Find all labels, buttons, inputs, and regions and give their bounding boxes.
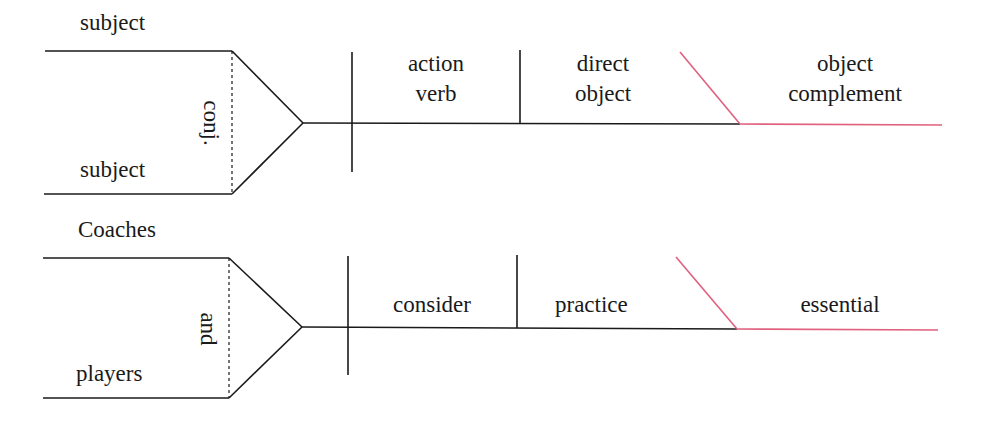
example-subject-bottom-label: players — [76, 361, 142, 387]
example-subject-top-label: Coaches — [78, 217, 156, 243]
complement-slant-line — [676, 257, 737, 329]
fork-lower-line — [232, 123, 303, 194]
fork-upper-line — [229, 258, 302, 327]
template-direct-object-label-line1: direct — [577, 51, 629, 77]
template-diagram-lines — [44, 50, 740, 194]
baseline — [303, 123, 740, 124]
example-conjunction-label: and — [195, 312, 221, 345]
example-direct-object-label: practice — [555, 292, 628, 318]
template-direct-object-label-line2: object — [575, 81, 631, 107]
baseline — [302, 327, 737, 329]
template-verb-label-line1: action — [408, 51, 464, 77]
complement-baseline — [737, 329, 938, 330]
example-complement-label: essential — [800, 292, 879, 318]
template-subject-top-label: subject — [80, 10, 145, 36]
complement-slant-line — [680, 52, 740, 124]
fork-upper-line — [232, 51, 303, 123]
example-verb-label: consider — [393, 292, 471, 318]
template-complement-label-line1: object — [817, 51, 873, 77]
template-verb-label-line2: verb — [416, 81, 457, 107]
example-diagram-lines — [43, 255, 737, 398]
template-conjunction-label: conj. — [198, 100, 224, 145]
template-subject-bottom-label: subject — [80, 157, 145, 183]
complement-baseline — [740, 124, 942, 125]
fork-lower-line — [229, 327, 302, 398]
template-complement-label-line2: complement — [788, 81, 902, 107]
